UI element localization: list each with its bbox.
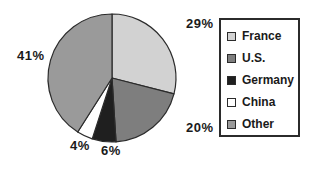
slice-value-label-germany: 6% [101,143,121,158]
legend-label-germany: Germany [242,74,294,86]
legend-label-other: Other [242,118,274,130]
legend-swatch-other-icon [227,120,236,129]
pie-slice-group [48,14,176,142]
legend-item-china[interactable]: China [227,91,298,113]
chart-legend: France U.S. Germany China Other [219,18,300,137]
legend-item-germany[interactable]: Germany [227,69,298,91]
legend-item-us[interactable]: U.S. [227,47,298,69]
legend-swatch-france-icon [227,32,236,41]
pie-chart-figure: 29% 20% 6% 4% 41% France U.S. Germany Ch… [0,0,315,169]
legend-item-other[interactable]: Other [227,113,298,135]
slice-value-label-us: 20% [186,120,214,135]
legend-swatch-us-icon [227,54,236,63]
slice-value-label-other: 41% [17,48,45,63]
legend-label-china: China [242,96,275,108]
legend-label-france: France [242,30,281,42]
legend-swatch-china-icon [227,98,236,107]
legend-label-us: U.S. [242,52,265,64]
slice-value-label-china: 4% [70,138,90,153]
slice-value-label-france: 29% [186,16,214,31]
legend-swatch-germany-icon [227,76,236,85]
legend-item-france[interactable]: France [227,25,298,47]
